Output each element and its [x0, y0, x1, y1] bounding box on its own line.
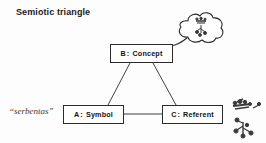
node-concept-label: B:Concept [120, 49, 162, 58]
diagram-canvas: Semiotic triangle [0, 0, 266, 143]
node-referent-key: C [171, 110, 176, 119]
node-referent-label: C:Referent [171, 110, 214, 119]
berry-branch-icon [229, 96, 265, 142]
node-symbol[interactable]: A:Symbol [63, 105, 124, 124]
node-concept[interactable]: B:Concept [110, 44, 173, 63]
node-referent[interactable]: C:Referent [162, 105, 223, 124]
node-concept-key: B [120, 49, 125, 58]
node-concept-name: Concept [130, 49, 162, 58]
edge-concept-symbol [108, 63, 130, 105]
node-symbol-label: A:Symbol [74, 110, 113, 119]
thought-cloud-icon [166, 9, 228, 53]
node-referent-name: Referent [181, 110, 214, 119]
node-symbol-name: Symbol [84, 110, 113, 119]
edge-concept-referent [153, 63, 176, 105]
